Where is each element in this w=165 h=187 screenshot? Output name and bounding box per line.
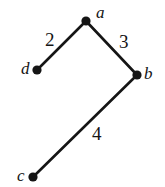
edge-b-c bbox=[33, 75, 137, 177]
graph-figure: a b c d 2 3 4 bbox=[0, 0, 165, 187]
node-c bbox=[28, 172, 37, 181]
graph-canvas bbox=[0, 0, 165, 187]
node-label-d: d bbox=[21, 60, 30, 77]
edge-weight-a-b: 3 bbox=[119, 32, 129, 51]
edge-a-b bbox=[86, 21, 137, 75]
node-d bbox=[32, 65, 41, 74]
edge-weight-d-a: 2 bbox=[45, 30, 55, 49]
node-label-c: c bbox=[17, 167, 25, 184]
node-b bbox=[132, 70, 141, 79]
node-label-a: a bbox=[96, 4, 105, 21]
node-a bbox=[81, 16, 90, 25]
edge-weight-b-c: 4 bbox=[92, 124, 102, 143]
node-label-b: b bbox=[144, 65, 153, 82]
